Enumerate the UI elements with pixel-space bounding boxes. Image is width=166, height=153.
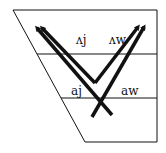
arrow-upper-left [42,28,95,83]
vowel-trapezoid-diagram: ʌj ʌw aj aw [0,0,166,153]
label-upper-left: ʌj [75,33,87,47]
label-lower-right: aw [121,84,139,98]
label-lower-left: aj [71,84,82,98]
label-upper-right: ʌw [108,33,127,47]
